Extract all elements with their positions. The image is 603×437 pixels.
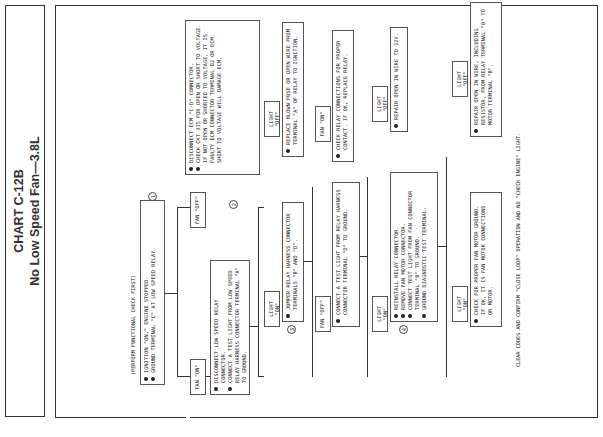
fuse-result-box: REPLACE BLOWN FUSE OR OPEN WIRE FROM TER… — [282, 22, 304, 157]
light-on-label-4: LIGHT "ON" — [452, 286, 468, 322]
bullet-icon — [401, 314, 405, 318]
step-4-marker: 4 — [399, 325, 408, 334]
step-1-box: IGNITION "ON," ENGINE STOPPED. GROUND TE… — [140, 200, 165, 385]
open-12v-result-box: REPAIR OPEN IN WIRE TO 12V. — [390, 27, 408, 132]
bullet-icon — [151, 377, 155, 381]
light-off-label-t: LIGHT "OFF" — [372, 86, 388, 122]
fan-off-label-3: FAN "OFF" — [315, 296, 331, 332]
title-block: CHART C-12B No Low Speed Fan—3.8L — [5, 5, 45, 417]
bullet-icon — [144, 377, 148, 381]
bullet-icon — [408, 314, 412, 318]
connector — [258, 207, 259, 377]
step-4-box: REINSTALL RELAY CONNECTOR. REMOVE FAN MO… — [390, 172, 438, 322]
bullet-icon — [394, 124, 398, 128]
fan-on-label: FAN "ON" — [190, 359, 206, 395]
step-3-box: JUMPER RELAY HARNESS CONNECTOR TERMINALS… — [282, 202, 304, 322]
bullet-icon — [214, 387, 218, 391]
connector — [177, 376, 190, 377]
ground-result-box: CHECK FOR PROPER FAN MOTOR GROUND. IF OK… — [470, 192, 502, 327]
open-resistor-result-box: REPAIR OPEN IN WIRE, INCLUDING RESISTOR,… — [470, 2, 502, 137]
connector — [360, 256, 367, 257]
intro-note: (PERFORM FUNCTIONAL CHECK FIRST) — [130, 275, 137, 375]
connector — [438, 246, 446, 247]
connector — [250, 326, 258, 327]
bullet-icon — [196, 167, 200, 171]
chart-id: CHART C-12B — [12, 6, 26, 416]
step-2-marker: 2 — [229, 200, 238, 209]
fan-off-label: FAN "OFF" — [190, 192, 206, 228]
bullet-icon — [474, 319, 478, 323]
rotated-page: CHART C-12B No Low Speed Fan—3.8L (PERFO… — [0, 0, 603, 437]
connector — [312, 187, 313, 377]
fan-on-label-3: FAN "ON" — [315, 106, 331, 142]
step-3-marker: 3 — [287, 325, 296, 334]
bullet-icon — [286, 149, 290, 153]
bullet-icon — [189, 167, 193, 171]
connector — [304, 261, 312, 262]
light-on-label: LIGHT "ON" — [264, 291, 280, 327]
bullet-icon — [286, 314, 290, 318]
light-on-label-t: LIGHT "ON" — [372, 296, 388, 332]
connector — [258, 376, 264, 377]
connector — [446, 157, 447, 377]
relay-conn-result-box: CHECK RELAY CONNECTIONS FOR PROPER CONTA… — [332, 30, 354, 162]
test-light-box: CONNECT A TEST LIGHT FROM RELAY HARNESS … — [332, 182, 360, 327]
light-off-label: LIGHT "OFF" — [264, 101, 280, 137]
connector — [165, 293, 177, 294]
bullet-icon — [422, 314, 426, 318]
bullet-icon — [228, 387, 232, 391]
light-off-label-4: LIGHT "OFF" — [452, 61, 468, 97]
footer-note: CLEAR CODES AND CONFIRM "CLOSE LOOP" OPE… — [515, 133, 522, 367]
bullet-icon — [474, 129, 478, 133]
connector — [367, 177, 368, 377]
connector — [177, 207, 190, 208]
connector — [177, 207, 178, 377]
chart-title: No Low Speed Fan—3.8L — [28, 6, 42, 416]
bullet-icon — [336, 154, 340, 158]
connector — [258, 207, 264, 208]
bullet-icon — [336, 319, 340, 323]
step-2-box: DISCONNECT LOW SPEED RELAY CONNECTOR. CO… — [210, 260, 250, 395]
bullet-icon — [394, 314, 398, 318]
ecm-result-box: DISCONNECT ECM "C-D" CONNECTOR. CHECK CK… — [185, 20, 260, 175]
